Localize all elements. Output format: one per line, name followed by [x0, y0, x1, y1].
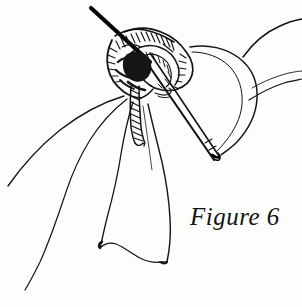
figure-caption: Figure 6	[190, 203, 280, 231]
figure-drawing-canvas	[0, 0, 302, 307]
figure-illustration: Figure 6	[0, 0, 302, 307]
